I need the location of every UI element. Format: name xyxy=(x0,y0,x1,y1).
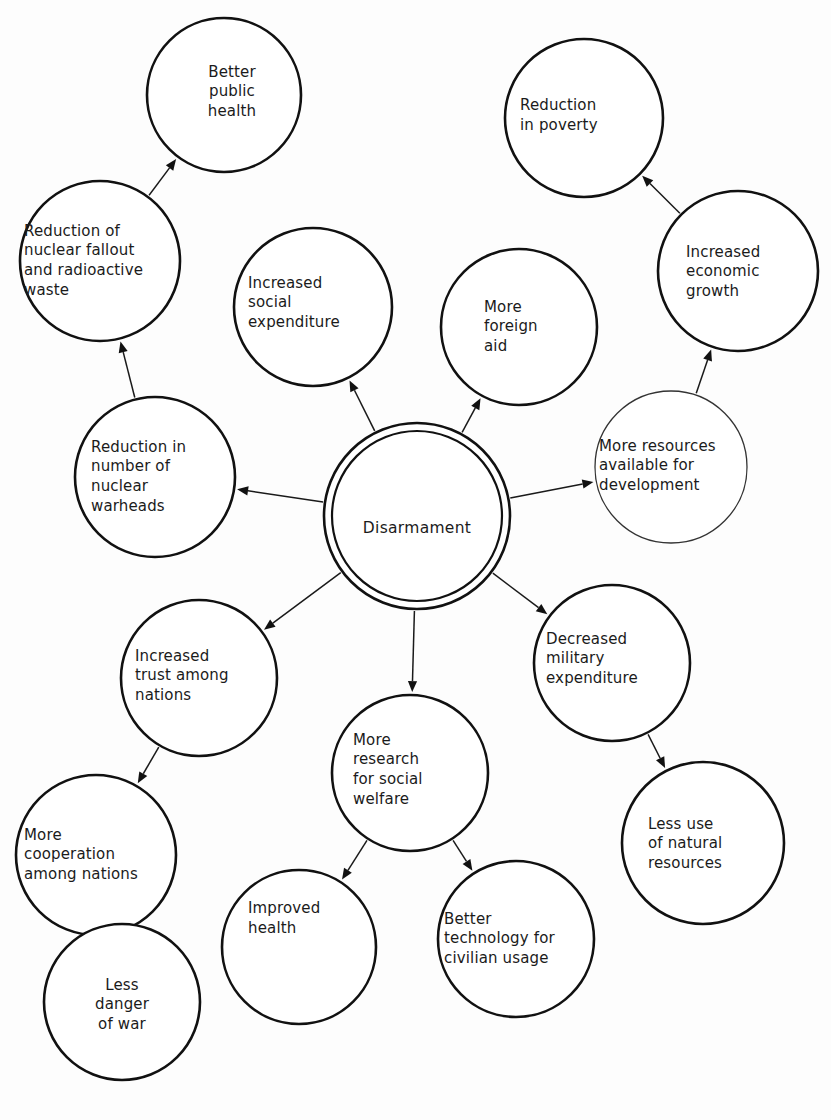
node-outline[interactable] xyxy=(44,924,200,1080)
node-outline[interactable] xyxy=(332,695,488,851)
node-more-foreign-aid[interactable] xyxy=(441,249,597,405)
edge-more-resources-development-to-increased-economic-growth xyxy=(696,350,712,394)
node-more-research-social-welfare[interactable] xyxy=(332,695,488,851)
edge-reduction-nuclear-fallout-to-better-public-health xyxy=(149,159,176,195)
edge-disarmament-to-more-resources-development xyxy=(510,480,593,498)
arrowhead-icon xyxy=(463,859,473,871)
arrowhead-icon xyxy=(582,480,594,489)
node-decreased-military-expenditure[interactable] xyxy=(534,585,690,741)
node-outline[interactable] xyxy=(505,39,663,197)
edge-line xyxy=(348,840,367,870)
arrowhead-icon xyxy=(703,350,712,362)
edge-line xyxy=(493,573,539,607)
edge-line xyxy=(123,352,135,397)
node-better-technology-civilian[interactable] xyxy=(438,861,594,1017)
node-increased-trust-nations[interactable] xyxy=(121,600,277,756)
concept-map-canvas: Better public healthReduction of nuclear… xyxy=(0,0,831,1120)
arrowhead-icon xyxy=(342,868,352,880)
edge-more-research-social-welfare-to-improved-health xyxy=(342,840,367,879)
edge-line xyxy=(273,573,341,623)
arrowhead-icon xyxy=(264,619,276,629)
node-outline[interactable] xyxy=(75,397,235,557)
node-more-cooperation-nations[interactable] xyxy=(16,775,176,935)
edge-line xyxy=(354,390,374,431)
node-outline[interactable] xyxy=(20,181,180,341)
node-less-danger-of-war[interactable] xyxy=(44,924,200,1080)
node-outline[interactable] xyxy=(441,249,597,405)
edge-line xyxy=(648,734,660,758)
edge-more-research-social-welfare-to-better-technology-civilian xyxy=(453,840,472,870)
arrowhead-icon xyxy=(408,681,417,692)
edge-line xyxy=(510,484,582,498)
node-outline[interactable] xyxy=(222,870,376,1024)
edge-increased-trust-nations-to-more-cooperation-nations xyxy=(138,747,159,783)
edge-disarmament-to-more-research-social-welfare xyxy=(408,611,417,692)
arrowhead-icon xyxy=(536,604,548,614)
node-outline[interactable] xyxy=(622,762,784,924)
edge-disarmament-to-increased-social-expenditure xyxy=(350,380,375,431)
edge-line xyxy=(462,408,475,432)
edge-line xyxy=(453,840,466,861)
node-outline[interactable] xyxy=(438,861,594,1017)
node-reduction-nuclear-fallout[interactable] xyxy=(20,181,180,341)
node-reduction-in-poverty[interactable] xyxy=(505,39,663,197)
node-outline[interactable] xyxy=(658,191,818,351)
edge-disarmament-to-more-foreign-aid xyxy=(462,398,480,432)
arrowhead-icon xyxy=(237,486,249,495)
edge-increased-economic-growth-to-reduction-in-poverty xyxy=(642,176,680,213)
arrowhead-icon xyxy=(166,159,176,171)
node-reduction-nuclear-warheads[interactable] xyxy=(75,397,235,557)
node-outline[interactable] xyxy=(534,585,690,741)
node-less-use-natural-resources[interactable] xyxy=(622,762,784,924)
node-outline[interactable] xyxy=(121,600,277,756)
node-increased-social-expenditure[interactable] xyxy=(234,228,392,386)
edge-line xyxy=(143,747,158,774)
arrowhead-icon xyxy=(119,341,128,353)
node-disarmament[interactable] xyxy=(324,423,510,609)
concept-map-svg xyxy=(0,0,831,1120)
node-outline[interactable] xyxy=(595,391,747,543)
edge-reduction-nuclear-warheads-to-reduction-nuclear-fallout xyxy=(119,341,135,397)
nodes-layer xyxy=(16,18,818,1080)
edge-line xyxy=(248,491,323,502)
edge-disarmament-to-increased-trust-nations xyxy=(264,573,341,630)
node-outline-inner xyxy=(332,431,502,601)
node-outline[interactable] xyxy=(16,775,176,935)
node-increased-economic-growth[interactable] xyxy=(658,191,818,351)
edge-line xyxy=(650,184,680,214)
edge-line xyxy=(149,168,169,195)
edge-line xyxy=(413,611,415,681)
node-outline[interactable] xyxy=(147,18,301,172)
edge-line xyxy=(696,360,707,393)
node-better-public-health[interactable] xyxy=(147,18,301,172)
node-more-resources-development[interactable] xyxy=(595,391,747,543)
node-outline[interactable] xyxy=(234,228,392,386)
arrowhead-icon xyxy=(138,771,148,783)
edge-disarmament-to-reduction-nuclear-warheads xyxy=(237,486,323,502)
edge-decreased-military-expenditure-to-less-use-natural-resources xyxy=(648,734,665,768)
edge-disarmament-to-decreased-military-expenditure xyxy=(493,573,547,614)
node-improved-health[interactable] xyxy=(222,870,376,1024)
